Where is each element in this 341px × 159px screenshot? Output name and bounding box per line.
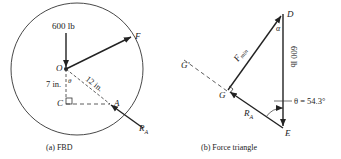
point-g-label: G <box>219 90 226 100</box>
reaction-label-triangle: RA <box>243 108 254 120</box>
fbd-caption: (a) FBD <box>46 143 73 152</box>
force-f-label: F <box>134 31 141 41</box>
load-label: 600 lb <box>52 21 75 31</box>
right-angle-mark <box>66 98 72 104</box>
load-label-vertical: 600 lb <box>289 46 299 68</box>
point-d-label: D <box>286 9 294 19</box>
point-e-label: E <box>284 128 291 138</box>
theta-label: θ <box>68 77 72 85</box>
point-c-label: C <box>57 98 64 108</box>
theta-arc <box>266 108 283 117</box>
g-prime-dashed-line <box>184 60 227 91</box>
dim-12-label: 12 in. <box>84 74 105 94</box>
alpha-label: α <box>276 24 281 33</box>
force-f-arrow <box>66 37 131 69</box>
triangle-caption: (b) Force triangle <box>201 143 257 152</box>
diagram-canvas: 600 lb F O θ 7 in. 12 in. C A RA (a) FBD… <box>0 0 341 159</box>
fmin-vector <box>228 16 281 90</box>
point-a-label: A <box>113 98 120 108</box>
force-triangle-panel: D α Fmin 600 lb G' G RA θ = 54.3° E (b) … <box>181 9 325 152</box>
pulley-circle <box>11 3 143 135</box>
reaction-vector <box>230 92 283 128</box>
fmin-label: Fmin <box>231 46 249 65</box>
theta-value-label: θ = 54.3° <box>294 96 325 106</box>
diagram-root: 600 lb F O θ 7 in. 12 in. C A RA (a) FBD… <box>0 0 341 159</box>
fbd-panel: 600 lb F O θ 7 in. 12 in. C A RA (a) FBD <box>11 3 149 152</box>
dim-7-label: 7 in. <box>46 79 61 89</box>
point-g-prime-label: G' <box>181 60 190 70</box>
reaction-label: RA <box>138 123 149 135</box>
point-o-label: O <box>56 63 63 73</box>
